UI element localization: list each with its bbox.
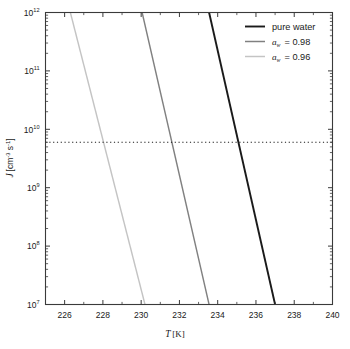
x-tick-label: 230 xyxy=(134,310,148,320)
y-axis-unit-cm: [cm xyxy=(5,158,15,172)
x-axis-symbol: T xyxy=(165,329,171,339)
x-tick-label: 234 xyxy=(211,310,225,320)
svg-text:T[K]: T[K] xyxy=(165,329,184,339)
x-tick-label: 238 xyxy=(287,310,301,320)
x-tick-label: 226 xyxy=(58,310,72,320)
x-tick-label: 232 xyxy=(172,310,186,320)
legend-subscript-aw-0-96: w xyxy=(277,57,281,63)
y-axis-unit-s: s xyxy=(5,146,15,153)
x-axis-unit: [K] xyxy=(172,329,185,339)
x-tick-label: 228 xyxy=(96,310,110,320)
legend-value-aw-0-96: = 0.96 xyxy=(282,52,310,62)
chart-figure: 226228230232234236238240 101210111010109… xyxy=(0,0,350,349)
legend-subscript-aw-0-98: w xyxy=(277,42,281,48)
x-tick-label: 240 xyxy=(325,310,339,320)
legend-value-aw-0-98: = 0.98 xyxy=(282,37,310,47)
x-tick-label: 236 xyxy=(249,310,263,320)
nucleation-rate-chart: 226228230232234236238240 101210111010109… xyxy=(0,0,350,349)
x-axis-title: T[K] xyxy=(165,329,184,339)
y-axis-unit-close: ] xyxy=(5,138,15,140)
legend-label-pure-water: pure water xyxy=(272,22,315,32)
